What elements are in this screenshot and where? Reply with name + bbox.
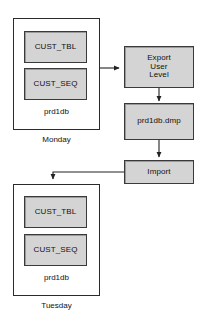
day-caption-monday: Monday: [13, 136, 100, 144]
table-box-tuesday-cust-seq[interactable]: CUST_SEQ: [24, 234, 87, 266]
process-box-import[interactable]: Import: [124, 160, 194, 184]
flowchart-diagram: CUST_TBL CUST_SEQ prd1db Monday Export U…: [0, 0, 209, 323]
table-box-monday-cust-tbl[interactable]: CUST_TBL: [24, 31, 87, 63]
process-box-export[interactable]: Export User Level: [124, 46, 194, 88]
connector-import-to-tuesday: [53, 172, 124, 179]
day-caption-tuesday: Tuesday: [13, 302, 100, 310]
artifact-box-dumpfile[interactable]: prd1db.dmp: [124, 103, 194, 140]
table-box-monday-cust-seq[interactable]: CUST_SEQ: [24, 68, 87, 100]
database-label-monday: prd1db: [13, 108, 100, 116]
database-label-tuesday: prd1db: [13, 274, 100, 282]
table-box-tuesday-cust-tbl[interactable]: CUST_TBL: [24, 196, 87, 228]
